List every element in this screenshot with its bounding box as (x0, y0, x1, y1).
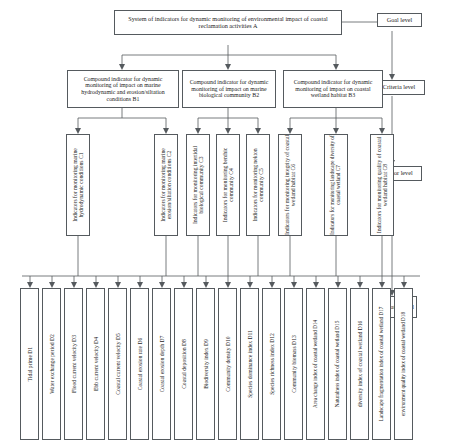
indicator-node-D1[interactable]: Tidal prime D1 (20, 288, 39, 440)
factor-node-C6[interactable]: Indicators for monitoring integrity of c… (278, 134, 302, 236)
criteria-node-B1-label: Compound indicator for dynamic monitorin… (70, 76, 176, 102)
indicator-node-D14-label: Area change index of coastal wetland D14 (313, 290, 319, 438)
indicator-node-D8-label: Coastal deposition D8 (180, 290, 186, 438)
level-tag-goal-label: Goal level (387, 17, 413, 24)
factor-node-C7-label: Indicators for monitoring landscape dive… (330, 135, 342, 235)
indicator-node-D5[interactable]: Coastal current velocity D5 (108, 288, 127, 440)
indicator-node-D9[interactable]: Biodiversity index D9 (196, 288, 215, 440)
criteria-node-B2-label: Compound indicator for dynamic monitorin… (185, 79, 273, 99)
indicator-node-D11-label: Species dominance index D11 (246, 290, 252, 438)
criteria-node-B2[interactable]: Compound indicator for dynamic monitorin… (182, 70, 276, 108)
factor-node-C6-label: Indicators for monitoring integrity of c… (284, 135, 297, 235)
indicator-node-D15[interactable]: Naturalness index of coastal wetland D15 (328, 288, 347, 440)
factor-node-C4-label: Indicators for monitoring benthic commun… (222, 136, 235, 234)
factor-node-C4[interactable]: Indicators for monitoring benthic commun… (216, 134, 240, 236)
level-tag-criteria-label: Criteria level (383, 84, 415, 91)
criteria-node-B3-label: Compound indicator for dynamic monitorin… (286, 79, 380, 99)
factor-node-C7[interactable]: Indicators for monitoring landscape dive… (324, 134, 348, 236)
criteria-node-B3[interactable]: Compound indicator for dynamic monitorin… (283, 70, 383, 108)
indicator-node-D2-label: Water exchange period D2 (48, 290, 54, 438)
indicator-node-D6[interactable]: Coastal erosion rate D6 (130, 288, 149, 440)
indicator-node-D1-label: Tidal prime D1 (26, 290, 32, 438)
indicator-node-D18-label: environment quality index of coastal wet… (401, 294, 407, 434)
indicator-node-D7[interactable]: Coastal erosion depth D7 (152, 288, 171, 440)
indicator-node-D3-label: Flood current velocity D3 (70, 290, 76, 438)
goal-node-label: System of indicators for dynamic monitor… (118, 16, 338, 30)
indicator-node-D3[interactable]: Flood current velocity D3 (64, 288, 83, 440)
level-tag-goal: Goal level (377, 13, 422, 27)
indicator-node-D9-label: Biodiversity index D9 (202, 290, 208, 438)
indicator-node-D4[interactable]: Ebb current velocity D4 (86, 288, 105, 440)
indicator-node-D7-label: Coastal erosion depth D7 (158, 290, 164, 438)
indicator-node-D2[interactable]: Water exchange period D2 (42, 288, 61, 440)
factor-node-C3-label: Indicators for monitoring intertidal bio… (192, 135, 205, 235)
factor-node-C2-label: Indicators for monitoring marine erosion… (160, 135, 173, 235)
factor-node-C5[interactable]: Indicators for monitoring nekton communi… (246, 134, 270, 236)
factor-node-C1-label: Indicators for monitoring marine hydrody… (72, 135, 85, 235)
indicator-node-D17[interactable]: Landscape fragmentation index of coastal… (372, 288, 391, 440)
indicator-node-D10-label: Community density D10 (224, 290, 230, 438)
factor-node-C8-label: Indicators for monitoring quality of coa… (376, 135, 389, 235)
factor-node-C8[interactable]: Indicators for monitoring quality of coa… (370, 134, 394, 236)
indicator-node-D6-label: Coastal erosion rate D6 (136, 290, 142, 438)
criteria-node-B1[interactable]: Compound indicator for dynamic monitorin… (67, 70, 179, 108)
indicator-node-D12[interactable]: Species richness index D12 (262, 288, 281, 440)
factor-node-C1[interactable]: Indicators for monitoring marine hydrody… (66, 134, 90, 236)
indicator-node-D14[interactable]: Area change index of coastal wetland D14 (306, 288, 325, 440)
indicator-node-D10[interactable]: Community density D10 (218, 288, 237, 440)
indicator-node-D16[interactable]: diversity index of coastal wetland D16 (350, 288, 369, 440)
indicator-node-D8[interactable]: Coastal deposition D8 (174, 288, 193, 440)
indicator-node-D5-label: Coastal current velocity D5 (114, 290, 120, 438)
indicator-system-diagram: System of indicators for dynamic monitor… (0, 0, 455, 448)
goal-node-A[interactable]: System of indicators for dynamic monitor… (114, 10, 342, 35)
indicator-node-D11[interactable]: Species dominance index D11 (240, 288, 259, 440)
indicator-node-D13-label: Community biomass D13 (290, 290, 296, 438)
indicator-node-D18[interactable]: environment quality index of coastal wet… (394, 288, 413, 440)
indicator-node-D16-label: diversity index of coastal wetland D16 (356, 304, 362, 424)
factor-node-C3[interactable]: Indicators for monitoring intertidal bio… (186, 134, 210, 236)
indicator-node-D15-label: Naturalness index of coastal wetland D15 (335, 290, 341, 438)
indicator-node-D13[interactable]: Community biomass D13 (284, 288, 303, 440)
indicator-node-D4-label: Ebb current velocity D4 (92, 290, 98, 438)
indicator-node-D12-label: Species richness index D12 (268, 290, 274, 438)
indicator-node-D17-label: Landscape fragmentation index of coastal… (379, 294, 385, 434)
factor-node-C2[interactable]: Indicators for monitoring marine erosion… (154, 134, 178, 236)
factor-node-C5-label: Indicators for monitoring nekton communi… (252, 137, 265, 233)
